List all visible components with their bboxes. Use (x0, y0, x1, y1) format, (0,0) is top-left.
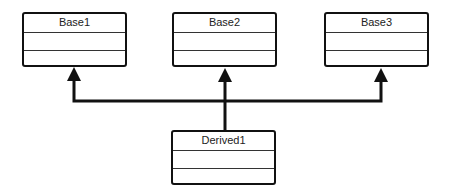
class-box-base2[interactable]: Base2 (172, 12, 277, 67)
class-box-base1[interactable]: Base1 (22, 12, 127, 67)
attributes-section (174, 33, 275, 51)
arrowhead-base3-icon (374, 68, 388, 82)
operations-section (326, 51, 427, 68)
attributes-section (24, 33, 125, 51)
class-name: Derived1 (173, 132, 274, 151)
operations-section (24, 51, 125, 68)
connector-base1-base3 (74, 80, 381, 101)
arrowhead-base2-icon (218, 68, 232, 82)
class-name: Base2 (174, 14, 275, 33)
attributes-section (326, 33, 427, 51)
arrowhead-base1-icon (67, 67, 81, 81)
operations-section (173, 169, 274, 186)
attributes-section (173, 151, 274, 169)
class-name: Base3 (326, 14, 427, 33)
class-box-derived1[interactable]: Derived1 (171, 130, 276, 185)
class-name: Base1 (24, 14, 125, 33)
class-box-base3[interactable]: Base3 (324, 12, 429, 67)
operations-section (174, 51, 275, 68)
